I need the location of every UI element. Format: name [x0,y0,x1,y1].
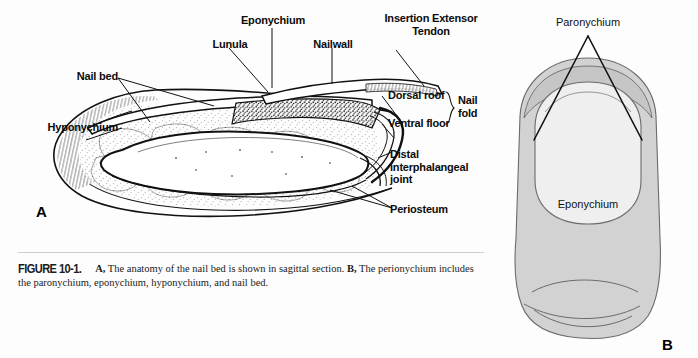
caption-a-bold: A, [95,263,105,274]
panel-b-marker: B [662,336,673,353]
label-distal-interphalangeal-joint: Distal interphalangeal joint [390,148,468,186]
caption-a-text: The anatomy of the nail bed is shown in … [105,263,347,274]
caption-b-bold: B, [347,263,357,274]
caption-rule [18,252,484,253]
label-periosteum: Periosteum [390,203,448,216]
label-lunula: Lunula [197,38,263,51]
figure-root: Lunula Eponychium Nailwall Insertion Ext… [0,0,698,358]
label-eponychium: Eponychium [228,14,318,27]
label-nailwall: Nailwall [300,38,366,51]
figure-caption: FIGURE 10-1.A, The anatomy of the nail b… [18,262,488,289]
panel-b-illustration [515,36,661,338]
label-insertion-extensor-tendon: Insertion Extensor Tendon [372,12,490,37]
label-nail-bed: Nail bed [50,70,118,83]
panel-a-marker: A [36,203,47,220]
label-ventral-floor: Ventral floor [388,117,450,130]
figure-number: FIGURE 10-1. [18,262,81,276]
label-nail-fold: Nail fold [458,94,477,119]
label-eponychium-panel-b: Eponychium [538,198,638,210]
label-hyponychium: Hyponychium [14,121,118,134]
label-paronychium: Paronychium [538,16,638,28]
panel-a-illustration [0,0,698,358]
label-dorsal-roof: Dorsal roof [388,89,444,102]
